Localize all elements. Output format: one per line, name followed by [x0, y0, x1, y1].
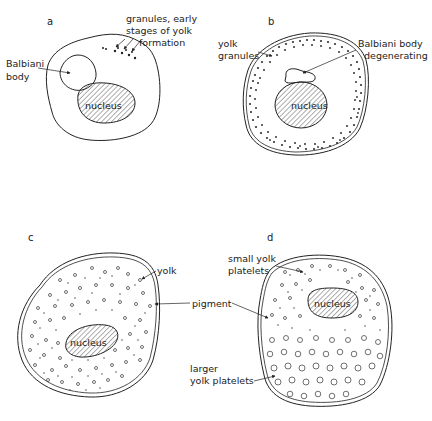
- annotation-granules-early-yolk: granules, early stages of yolk formation: [116, 13, 197, 51]
- svg-text:yolk: yolk: [157, 265, 177, 276]
- svg-text:Balbiani: Balbiani: [6, 58, 44, 69]
- svg-text:formation: formation: [139, 37, 185, 48]
- cell-membrane-c-inner: [22, 257, 157, 393]
- annotation-small-yolk-platelets: small yolk platelets: [228, 253, 303, 276]
- panel-c: c: [18, 232, 177, 397]
- nucleus-label-a: nucleus: [85, 100, 122, 111]
- svg-text:granules: granules: [218, 50, 259, 61]
- panel-b: b: [218, 16, 428, 155]
- cell-membrane-d-outer: [258, 255, 392, 406]
- svg-text:granules, early: granules, early: [126, 13, 197, 24]
- panel-label-a: a: [47, 16, 53, 27]
- svg-text:yolk: yolk: [218, 38, 238, 49]
- larger-yolk-platelets-d: [267, 336, 383, 399]
- panel-d: d: [190, 232, 392, 406]
- svg-text:yolk platelets: yolk platelets: [190, 375, 254, 386]
- svg-text:platelets: platelets: [228, 265, 269, 276]
- panel-label-c: c: [28, 232, 34, 243]
- svg-text:small yolk: small yolk: [228, 253, 276, 264]
- yolk-granules-a: [102, 47, 136, 59]
- nucleus-label-c: nucleus: [70, 337, 107, 348]
- nucleus-label-d: nucleus: [314, 298, 351, 309]
- cell-membrane-d-inner: [261, 259, 389, 403]
- annotation-balbiani-degenerating: Balbiani body degenerating: [303, 38, 428, 73]
- nucleus-label-b: nucleus: [291, 100, 328, 111]
- panel-label-b: b: [268, 16, 274, 27]
- svg-text:degenerating: degenerating: [364, 50, 428, 61]
- svg-text:larger: larger: [190, 363, 218, 374]
- svg-text:body: body: [6, 71, 30, 82]
- balbiani-body-b: [285, 69, 315, 83]
- annotation-yolk-c: yolk: [142, 265, 177, 279]
- oocyte-development-diagram: a nucleus granules, early stages of yolk…: [0, 0, 432, 421]
- svg-text:pigment: pigment: [192, 298, 232, 309]
- annotation-pigment: pigment: [155, 298, 268, 318]
- svg-text:Balbiani body: Balbiani body: [358, 38, 423, 49]
- panel-label-d: d: [267, 232, 273, 243]
- panel-a: a nucleus granules, early stages of yolk…: [6, 13, 197, 140]
- svg-text:stages of yolk: stages of yolk: [126, 25, 193, 36]
